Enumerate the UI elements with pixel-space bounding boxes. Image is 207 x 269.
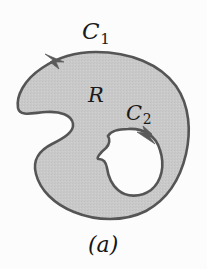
curve-label-c2: C2 [126,103,151,124]
curve-label-c2-subscript: 2 [143,111,152,127]
curve-label-c1-main: C [82,18,100,44]
shaded-region-R [18,52,189,219]
curve-label-c2-main: C [126,101,142,125]
region-label-r: R [88,85,104,106]
figure-caption: (a) [88,234,118,256]
curve-label-c1: C1 [82,20,109,43]
figure-container: C1 C2 R (a) [0,0,207,269]
curve-label-c1-subscript: 1 [100,30,110,48]
